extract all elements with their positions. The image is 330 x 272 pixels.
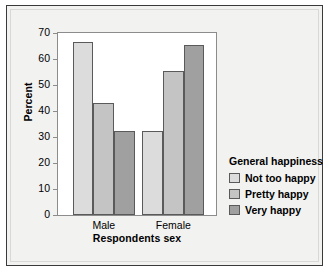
bar[interactable] — [114, 131, 135, 216]
y-axis-tick-label: 20 — [38, 156, 50, 169]
y-axis-tick-label: 60 — [38, 52, 50, 65]
y-axis-tick-label: 70 — [38, 26, 50, 39]
bar[interactable] — [184, 45, 205, 215]
legend: General happiness Not too happyPretty ha… — [229, 155, 329, 220]
bar-group — [73, 33, 135, 215]
legend-item[interactable]: Pretty happy — [229, 188, 329, 200]
y-axis-tick-label: 0 — [44, 208, 50, 221]
chart-figure-inner-border: 010203040506070 Percent MaleFemale Respo… — [10, 9, 319, 262]
legend-item-label: Very happy — [245, 204, 301, 216]
y-axis-tick-label: 30 — [38, 130, 50, 143]
x-axis-tick-label: Male — [64, 219, 144, 231]
chart-figure: 010203040506070 Percent MaleFemale Respo… — [6, 5, 323, 266]
bar[interactable] — [163, 71, 184, 215]
legend-item[interactable]: Not too happy — [229, 172, 329, 184]
legend-title: General happiness — [229, 155, 329, 167]
legend-item-label: Not too happy — [245, 172, 316, 184]
legend-item-label: Pretty happy — [245, 188, 309, 200]
bar[interactable] — [73, 42, 94, 215]
legend-item[interactable]: Very happy — [229, 204, 329, 216]
legend-swatch — [229, 173, 240, 183]
plot-area — [58, 33, 216, 215]
y-axis: 010203040506070 — [11, 32, 57, 216]
legend-swatch — [229, 205, 240, 215]
y-axis-tick-label: 50 — [38, 78, 50, 91]
y-axis-tick-label: 40 — [38, 104, 50, 117]
bar[interactable] — [93, 103, 114, 215]
legend-rows: Not too happyPretty happyVery happy — [229, 172, 329, 216]
x-axis-tick-label: Female — [133, 219, 213, 231]
x-axis-title: Respondents sex — [47, 232, 227, 244]
legend-swatch — [229, 189, 240, 199]
y-axis-tick-label: 10 — [38, 182, 50, 195]
y-axis-title: Percent — [22, 72, 34, 132]
bar[interactable] — [142, 131, 163, 216]
plot-frame — [57, 32, 217, 216]
bar-group — [142, 33, 204, 215]
